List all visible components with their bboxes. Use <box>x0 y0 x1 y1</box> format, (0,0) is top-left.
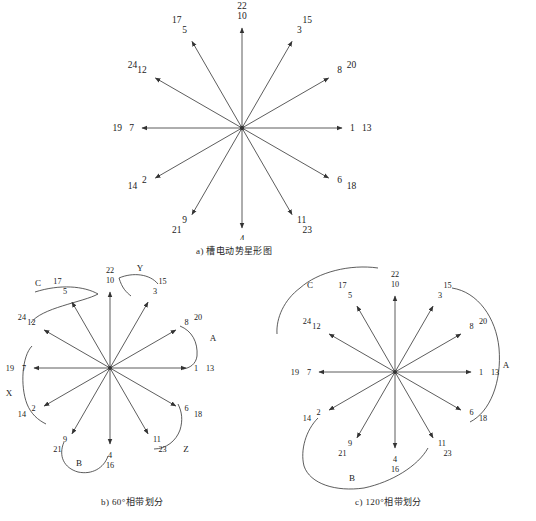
spoke-3-15 <box>110 302 148 368</box>
slot-label-1: 1 <box>194 364 198 373</box>
bracket-b-tail-b <box>78 456 108 473</box>
slot-label-14: 14 <box>303 414 311 423</box>
slot-label-2: 2 <box>316 408 320 417</box>
spoke-6-18 <box>110 368 176 406</box>
slot-label-8: 8 <box>469 322 473 331</box>
slot-label-9: 9 <box>63 435 67 444</box>
spoke-12-24 <box>44 330 110 368</box>
slot-label-15: 15 <box>303 15 313 25</box>
slot-label-9: 9 <box>348 439 352 448</box>
star-diagram-b: 113820315102251712247192149214161123618 … <box>0 258 268 498</box>
bracket-a-tail-c <box>470 348 499 422</box>
slot-label-7: 7 <box>129 123 134 133</box>
bracket-label-x: X <box>6 388 13 398</box>
panel-b-slot-emf-star: 113820315102251712247192149214161123618 … <box>0 258 268 498</box>
slot-label-17: 17 <box>53 277 61 286</box>
spoke-2-14 <box>44 368 110 406</box>
slot-label-19: 19 <box>113 123 123 133</box>
spoke-5-17 <box>72 302 110 368</box>
bracket-c-tail-c <box>277 288 300 334</box>
slot-label-13: 13 <box>491 368 499 377</box>
slot-label-12: 12 <box>312 322 320 331</box>
slot-label-4: 4 <box>240 234 245 240</box>
slot-label-21: 21 <box>338 449 346 458</box>
spoke-9-21 <box>72 368 110 434</box>
slot-label-2: 2 <box>31 404 35 413</box>
slot-label-7: 7 <box>307 368 311 377</box>
bracket-label-b: B <box>349 473 355 483</box>
slot-label-10: 10 <box>106 276 114 285</box>
slot-label-18: 18 <box>479 414 487 423</box>
slot-label-8: 8 <box>184 318 188 327</box>
spoke-8-20 <box>395 334 461 372</box>
spoke-11-23 <box>395 372 433 438</box>
bracket-label-b: B <box>76 458 82 468</box>
slot-label-11: 11 <box>153 435 161 444</box>
spoke-2-14 <box>329 372 395 410</box>
slot-label-8: 8 <box>337 65 342 75</box>
spoke-5-17 <box>357 306 395 372</box>
spoke-8-20 <box>242 78 329 128</box>
star-a-center-hub <box>240 126 244 130</box>
slot-label-15: 15 <box>444 281 452 290</box>
slot-label-12: 12 <box>137 65 147 75</box>
slot-label-19: 19 <box>291 368 299 377</box>
star-diagram-a: 113820315102251712247192149214161123618 <box>0 0 536 240</box>
bracket-b-arc-c <box>303 418 318 466</box>
slot-label-5: 5 <box>63 287 67 296</box>
slot-label-1: 1 <box>479 368 483 377</box>
slot-label-3: 3 <box>153 287 157 296</box>
spoke-2-14 <box>155 128 242 178</box>
panel-a-slot-emf-star: 113820315102251712247192149214161123618 <box>0 0 536 240</box>
slot-label-21: 21 <box>53 445 61 454</box>
slot-label-18: 18 <box>194 410 202 419</box>
slot-label-24: 24 <box>128 60 138 70</box>
spoke-3-15 <box>395 306 433 372</box>
slot-label-21: 21 <box>172 225 182 235</box>
spoke-6-18 <box>242 128 329 178</box>
slot-label-22: 22 <box>237 1 247 11</box>
slot-label-14: 14 <box>128 181 138 191</box>
slot-label-22: 22 <box>106 266 114 275</box>
slot-label-13: 13 <box>362 123 372 133</box>
bracket-y-tail-b <box>119 278 131 296</box>
slot-label-24: 24 <box>303 317 311 326</box>
slot-label-20: 20 <box>347 60 357 70</box>
slot-label-3: 3 <box>438 291 442 300</box>
slot-label-16: 16 <box>106 461 114 470</box>
panel-c-slot-emf-star: 113820315102251712247192149214161123618 … <box>268 258 536 498</box>
slot-label-5: 5 <box>348 291 352 300</box>
slot-label-2: 2 <box>142 175 147 185</box>
slot-label-14: 14 <box>18 410 26 419</box>
slot-label-10: 10 <box>391 280 399 289</box>
slot-label-24: 24 <box>18 313 26 322</box>
slot-label-11: 11 <box>438 439 446 448</box>
slot-label-23: 23 <box>444 449 452 458</box>
spoke-9-21 <box>192 128 242 215</box>
spoke-11-23 <box>110 368 148 434</box>
spoke-5-17 <box>192 41 242 128</box>
slot-label-10: 10 <box>237 11 247 21</box>
bracket-z-tail-b <box>178 404 182 430</box>
slot-label-23: 23 <box>303 225 313 235</box>
slot-label-19: 19 <box>6 364 14 373</box>
slot-label-3: 3 <box>297 25 302 35</box>
slot-label-20: 20 <box>194 313 202 322</box>
star-diagram-c: 113820315102251712247192149214161123618 … <box>268 258 536 498</box>
bracket-label-c: C <box>35 278 41 288</box>
caption-panel-c: c) 120°相带划分 <box>355 495 422 508</box>
star-b-center-hub <box>108 366 112 370</box>
slot-label-11: 11 <box>297 215 306 225</box>
slot-label-4: 4 <box>393 455 397 464</box>
star-c-bracket-group <box>277 267 500 489</box>
slot-label-6: 6 <box>469 408 473 417</box>
star-c-center-hub <box>393 370 397 374</box>
bracket-label-z: Z <box>183 444 189 454</box>
slot-label-22: 22 <box>391 270 399 279</box>
slot-label-20: 20 <box>479 317 487 326</box>
bracket-label-y: Y <box>137 263 144 273</box>
bracket-a-arc-c <box>452 288 499 348</box>
spoke-11-23 <box>242 128 292 215</box>
caption-panel-a: a) 槽电动势星形图 <box>196 244 272 257</box>
spoke-12-24 <box>155 78 242 128</box>
